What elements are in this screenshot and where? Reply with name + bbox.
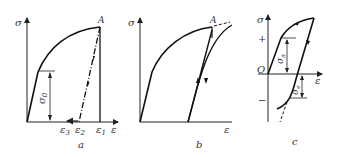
eps2-label: ε2 <box>75 124 85 137</box>
sigma-e-arrow-up-icon <box>300 75 304 80</box>
epsilon-axis-label-c: ε <box>315 75 320 86</box>
eps1-label: ε1 <box>96 124 106 137</box>
epsilon-axis-label-b: ε <box>224 124 229 135</box>
loading-curve-c <box>268 18 314 74</box>
sigma-a-label: σa <box>275 54 286 64</box>
sigma-e-label: σe <box>290 85 301 95</box>
point-a-label-b: A <box>209 15 217 25</box>
sigma-a-arrow-up-icon <box>285 39 289 44</box>
sigma0-arrow-down-icon <box>48 115 52 121</box>
sigma0-label: σ0 <box>36 92 49 104</box>
stress-strain-figure: σ0 σ A ε ε3 ε2 ε1 a σ A ε b <box>0 0 338 157</box>
panel-c: σa σe σ + O − ε c <box>257 14 322 147</box>
caption-c: c <box>292 136 298 147</box>
sigma0-arrow-up-icon <box>48 72 52 78</box>
sigma-axis-label-c: σ <box>257 14 265 25</box>
caption-b: b <box>196 139 202 150</box>
unloading-line-b <box>188 30 212 122</box>
minus-label-c: − <box>258 95 266 106</box>
down-arrow-icon-b <box>204 78 208 84</box>
sigma-axis-label-b: σ <box>128 17 136 28</box>
sigma-a-arrow-down-icon <box>285 68 289 73</box>
caption-a: a <box>78 139 84 150</box>
origin-label-c: O <box>257 64 265 75</box>
sigma-axis-label-a: σ <box>15 17 23 28</box>
panel-a: σ0 σ A ε ε3 ε2 ε1 a <box>15 15 118 150</box>
panel-b: σ A ε b <box>128 15 232 150</box>
eps3-label: ε3 <box>60 124 70 137</box>
plus-label-c: + <box>258 33 266 44</box>
unloading-dashed-line-a <box>79 27 100 122</box>
epsilon-axis-label-a: ε <box>111 124 116 135</box>
point-a-label-a: A <box>97 15 105 25</box>
sigma-e-arrow-down-icon <box>300 93 304 98</box>
